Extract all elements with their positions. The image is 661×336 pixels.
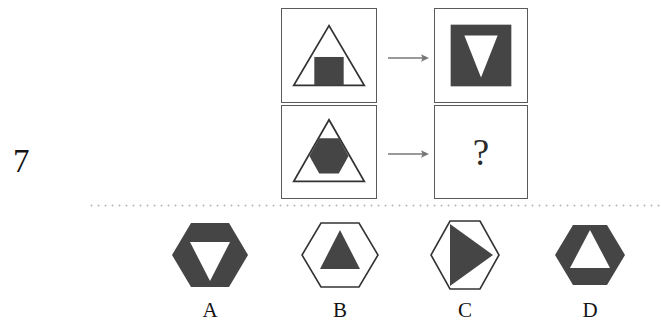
dark-square-with-white-down-triangle-icon [435, 9, 527, 102]
question-number: 7 [13, 142, 30, 180]
option-d-label: D [544, 298, 636, 322]
answer-option-d[interactable]: D [544, 216, 636, 336]
option-c-shape [419, 216, 511, 294]
arrow-right-icon-row2 [386, 144, 430, 164]
dark-hexagon-with-white-down-triangle-icon [164, 216, 256, 294]
option-b-shape [294, 216, 386, 294]
option-d-shape [544, 216, 636, 294]
answer-option-c[interactable]: C [419, 216, 511, 336]
option-c-label: C [419, 298, 511, 322]
answer-option-b[interactable]: B [294, 216, 386, 336]
option-a-shape [164, 216, 256, 294]
matrix-cell-row2-source [281, 105, 377, 199]
arrow-right-icon-row1 [386, 48, 430, 68]
arrow-glyph [386, 144, 430, 164]
outline-hexagon-with-dark-right-triangle-icon [419, 216, 511, 294]
matrix-cell-row1-result [434, 8, 528, 103]
matrix-cell-row1-source [281, 8, 377, 103]
outline-hexagon-with-dark-up-triangle-icon [294, 216, 386, 294]
option-b-label: B [294, 298, 386, 322]
arrow-glyph [386, 48, 430, 68]
question-mark: ? [434, 105, 528, 199]
dark-hexagon-with-white-up-triangle-icon [544, 216, 636, 294]
puzzle-canvas: 7 ? [0, 0, 661, 336]
triangle-outline-with-dark-hexagon-icon [282, 106, 376, 198]
option-a-label: A [164, 298, 256, 322]
triangle-outline-with-dark-square-icon [282, 9, 376, 102]
section-divider [88, 204, 661, 207]
answer-option-a[interactable]: A [164, 216, 256, 336]
